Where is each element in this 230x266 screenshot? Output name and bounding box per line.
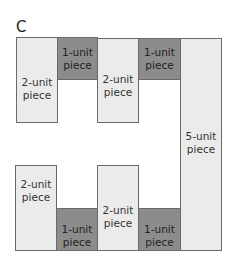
bottom-piece-col2: 1-unit piece (56, 208, 98, 251)
top-piece-col1: 2-unit piece (16, 37, 58, 123)
bottom-piece-col4: 1-unit piece (138, 208, 181, 251)
piece-label: 2-unit piece (103, 73, 134, 99)
top-piece-col3: 2-unit piece (97, 38, 139, 123)
piece-label: 1-unit piece (144, 223, 175, 249)
piece-label: 2-unit piece (21, 178, 52, 204)
bottom-piece-col3: 2-unit piece (97, 165, 139, 251)
piece-label: 1-unit piece (62, 46, 93, 72)
top-piece-col2: 1-unit piece (57, 37, 98, 80)
piece-label: 1-unit piece (62, 223, 93, 249)
bottom-piece-col1: 2-unit piece (15, 165, 57, 251)
piece-label: 1-unit piece (144, 46, 175, 72)
top-piece-col4: 1-unit piece (138, 38, 181, 80)
figure-label: C (16, 18, 26, 36)
piece-label: 2-unit piece (103, 204, 134, 230)
piece-label: 2-unit piece (22, 76, 53, 102)
tall-piece-col5: 5-unit piece (180, 38, 222, 251)
piece-label: 5-unit piece (186, 130, 217, 156)
